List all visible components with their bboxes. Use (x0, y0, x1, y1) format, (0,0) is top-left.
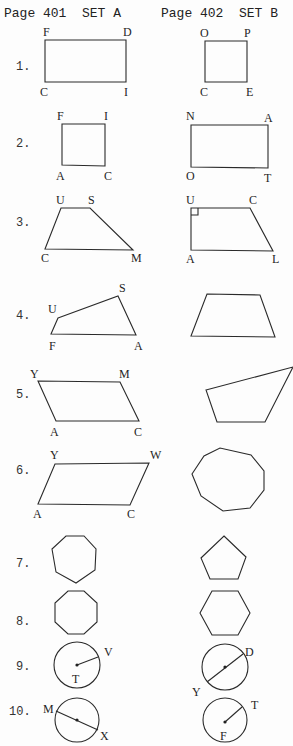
problem-10-set-b-figure: TF (203, 698, 259, 743)
vertex-label: I (124, 85, 128, 99)
problem-number: 7. (16, 557, 30, 571)
problem-9-set-a-figure: VT (54, 642, 113, 688)
problem-number: 9. (16, 660, 30, 674)
problem-2-set-a-figure: FIAC (56, 109, 112, 183)
problem-5-set-a-figure: YMAC (30, 367, 142, 439)
worksheet-page: Page 401 SET A Page 402 SET B 1.FDCIOPCE… (0, 0, 293, 746)
problem-number: 10. (9, 705, 31, 719)
vertex-label: A (50, 425, 59, 439)
vertex-label: I (104, 109, 108, 123)
problem-5-set-b-figure (206, 367, 293, 422)
vertex-label: C (40, 85, 48, 99)
vertex-label: V (104, 645, 113, 659)
vertex-label: P (244, 26, 251, 40)
vertex-label: A (33, 507, 42, 521)
problem-10-set-b-figure-center-dot (223, 720, 226, 723)
figures-canvas: 1.FDCIOPCE2.FIACNAOT3.USCMUCAL4.SUFA5.YM… (0, 0, 293, 746)
problem-8-set-a-figure (55, 591, 97, 634)
vertex-label: M (119, 367, 130, 381)
problem-5-set-a-figure-polygon (38, 381, 139, 421)
vertex-label: F (220, 729, 227, 743)
problem-6-set-b-figure (192, 448, 264, 511)
vertex-label: Y (50, 448, 59, 462)
vertex-label: C (127, 507, 135, 521)
vertex-label: U (56, 193, 65, 207)
vertex-label: O (200, 26, 209, 40)
problem-4-set-b-figure (191, 294, 275, 337)
problem-number: 1. (16, 60, 30, 74)
problem-4-set-a-figure: SUFA (48, 281, 143, 353)
problem-7-set-b-figure (201, 536, 246, 579)
vertex-label: A (56, 169, 65, 183)
problem-3-set-b-figure: UCAL (186, 193, 279, 266)
problem-2-set-b-figure-polygon (191, 125, 268, 168)
problem-6-set-b-figure-polygon (192, 448, 264, 511)
problem-10-set-a-figure: MX (43, 698, 109, 743)
vertex-label: W (150, 448, 162, 462)
vertex-label: Y (192, 685, 201, 699)
problem-3-set-a-figure: USCM (41, 193, 142, 265)
problem-8-set-a-figure-polygon (55, 591, 97, 634)
vertex-label: C (134, 425, 142, 439)
problem-10-set-b-figure-segment (225, 707, 242, 722)
problem-1-set-a-figure: FDCI (40, 25, 132, 99)
vertex-label: U (186, 193, 195, 207)
problem-number: 5. (16, 388, 30, 402)
vertex-label: E (246, 85, 253, 99)
problem-5-set-b-figure-polygon (206, 367, 293, 422)
problem-3-set-a-figure-polygon (45, 208, 133, 250)
vertex-label: F (57, 109, 64, 123)
problem-4-set-b-figure-polygon (191, 294, 275, 337)
problem-4-set-a-figure-polygon (51, 296, 136, 335)
problem-1-set-b-figure: OPCE (200, 26, 253, 99)
vertex-label: L (272, 252, 279, 266)
vertex-label: C (104, 169, 112, 183)
vertex-label: U (48, 302, 57, 316)
right-angle-marker (191, 208, 198, 215)
problem-7-set-b-figure-polygon (201, 536, 246, 579)
vertex-label: N (186, 109, 195, 123)
vertex-label: D (245, 645, 254, 659)
vertex-label: T (72, 672, 80, 686)
vertex-label: C (249, 193, 257, 207)
vertex-label: D (123, 25, 132, 39)
vertex-label: T (264, 171, 272, 185)
vertex-label: T (251, 698, 259, 712)
problem-2-set-b-figure: NAOT (186, 109, 273, 185)
problem-9-set-a-figure-segment (77, 657, 98, 665)
problem-1-set-b-figure-polygon (205, 41, 247, 82)
problem-number: 2. (16, 137, 30, 151)
vertex-label: F (49, 339, 56, 353)
problem-9-set-b-figure: DY (192, 644, 254, 699)
vertex-label: M (43, 702, 54, 716)
problem-6-set-a-figure-polygon (38, 463, 149, 505)
vertex-label: C (41, 251, 49, 265)
problem-number: 6. (16, 464, 30, 478)
problem-10-set-a-figure-center-dot (75, 718, 78, 721)
problem-number: 4. (16, 309, 30, 323)
vertex-label: X (100, 729, 109, 743)
problem-2-set-a-figure-polygon (62, 124, 105, 166)
problem-9-set-a-figure-center-dot (75, 663, 78, 666)
problem-number: 8. (16, 615, 30, 629)
vertex-label: A (134, 339, 143, 353)
problem-number: 3. (16, 216, 30, 230)
problem-3-set-b-figure-polygon (191, 208, 273, 251)
problem-9-set-b-figure-center-dot (223, 665, 226, 668)
vertex-label: A (264, 111, 273, 125)
vertex-label: F (43, 25, 50, 39)
problem-8-set-b-figure-polygon (200, 591, 250, 635)
vertex-label: S (119, 281, 126, 295)
problem-6-set-a-figure: YWAC (33, 448, 162, 521)
problem-8-set-b-figure (200, 591, 250, 635)
vertex-label: Y (30, 367, 39, 381)
vertex-label: A (186, 252, 195, 266)
vertex-label: M (131, 251, 142, 265)
vertex-label: C (200, 85, 208, 99)
vertex-label: O (186, 169, 195, 183)
problem-7-set-a-figure-polygon (52, 536, 96, 583)
problem-1-set-a-figure-polygon (45, 40, 126, 82)
problem-7-set-a-figure (52, 536, 96, 583)
vertex-label: S (88, 193, 95, 207)
